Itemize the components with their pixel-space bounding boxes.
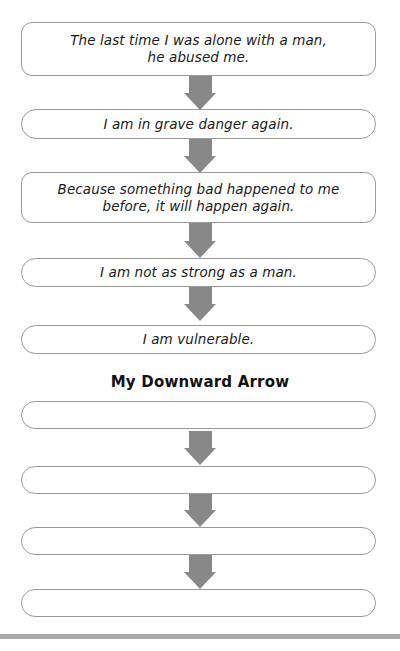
example-thought-text-5: I am vulnerable. <box>143 331 255 348</box>
worksheet-heading: My Downward Arrow <box>0 373 400 391</box>
example-thought-box-1: The last time I was alone with a man, he… <box>21 22 376 76</box>
example-thought-box-3: Because something bad happened to me bef… <box>21 172 376 223</box>
worksheet-entry-box-3[interactable] <box>21 527 376 555</box>
example-thought-box-2: I am in grave danger again. <box>21 109 376 139</box>
down-arrow-icon <box>184 431 217 465</box>
down-arrow-icon <box>184 494 217 527</box>
worksheet-entry-box-1[interactable] <box>21 401 376 429</box>
down-arrow-icon <box>184 223 217 258</box>
worksheet-entry-box-2[interactable] <box>21 466 376 494</box>
example-thought-text-1: The last time I was alone with a man, he… <box>70 32 327 66</box>
down-arrow-icon <box>184 139 217 173</box>
example-thought-text-3: Because something bad happened to me bef… <box>58 181 340 215</box>
example-thought-text-2: I am in grave danger again. <box>103 116 293 133</box>
bottom-divider <box>0 634 400 639</box>
example-thought-box-5: I am vulnerable. <box>21 325 376 354</box>
down-arrow-icon <box>184 76 217 110</box>
down-arrow-icon <box>184 555 217 589</box>
example-thought-text-4: I am not as strong as a man. <box>100 264 297 281</box>
down-arrow-icon <box>184 287 217 321</box>
worksheet-entry-box-4[interactable] <box>21 589 376 617</box>
example-thought-box-4: I am not as strong as a man. <box>21 258 376 287</box>
